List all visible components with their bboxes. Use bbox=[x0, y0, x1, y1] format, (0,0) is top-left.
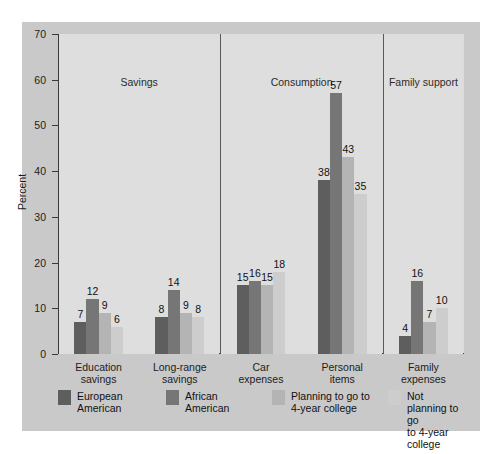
y-axis-label: Percent bbox=[16, 162, 28, 222]
figure-panel: 010203040506070 Percent SavingsConsumpti… bbox=[22, 22, 480, 431]
bar bbox=[74, 322, 86, 354]
bar-value-label: 12 bbox=[80, 285, 104, 297]
bar-value-label: 9 bbox=[93, 299, 117, 311]
panel-title: Consumption bbox=[220, 76, 382, 88]
bar bbox=[330, 93, 342, 354]
bar bbox=[399, 336, 411, 354]
legend-swatch bbox=[272, 390, 285, 405]
panel-title: Family support bbox=[383, 76, 464, 88]
legend-item[interactable]: Not planning to go to 4-year college bbox=[388, 390, 464, 450]
y-axis-tick bbox=[52, 171, 58, 172]
panel-title: Savings bbox=[58, 76, 220, 88]
legend-label: African American bbox=[185, 390, 229, 414]
y-axis-tick-label: 0 bbox=[24, 348, 46, 360]
y-axis-tick bbox=[52, 263, 58, 264]
y-axis-tick-label: 20 bbox=[24, 257, 46, 269]
legend-item[interactable]: African American bbox=[166, 390, 229, 414]
bar bbox=[192, 317, 204, 354]
bar bbox=[436, 308, 448, 354]
legend-label: Not planning to go to 4-year college bbox=[407, 390, 464, 450]
y-axis-tick-label: 10 bbox=[24, 302, 46, 314]
legend-swatch bbox=[166, 390, 179, 405]
bar-value-label: 14 bbox=[162, 276, 186, 288]
bar bbox=[249, 281, 261, 354]
bar-value-label: 35 bbox=[348, 180, 372, 192]
bar bbox=[273, 272, 285, 354]
bar bbox=[155, 317, 167, 354]
bar bbox=[423, 322, 435, 354]
y-axis-tick bbox=[52, 125, 58, 126]
bar bbox=[237, 285, 249, 354]
legend-item[interactable]: Planning to go to 4-year college bbox=[272, 390, 370, 414]
bar bbox=[354, 194, 366, 354]
legend-swatch bbox=[388, 390, 401, 405]
bar-value-label: 16 bbox=[405, 267, 429, 279]
chart-legend: European AmericanAfrican AmericanPlannin… bbox=[58, 390, 464, 422]
y-axis-tick bbox=[52, 308, 58, 309]
bar bbox=[318, 180, 330, 354]
y-axis-tick-label: 70 bbox=[24, 28, 46, 40]
legend-label: European American bbox=[77, 390, 123, 414]
bar bbox=[180, 313, 192, 354]
bar-value-label: 18 bbox=[267, 258, 291, 270]
bar-value-label: 8 bbox=[186, 303, 210, 315]
bar-value-label: 6 bbox=[105, 313, 129, 325]
bar-value-label: 57 bbox=[324, 79, 348, 91]
y-axis-tick bbox=[52, 217, 58, 218]
bar-value-label: 10 bbox=[430, 294, 454, 306]
y-axis-tick-label: 60 bbox=[24, 74, 46, 86]
legend-item[interactable]: European American bbox=[58, 390, 123, 414]
y-axis-tick bbox=[52, 34, 58, 35]
bar bbox=[111, 327, 123, 354]
bar bbox=[261, 285, 273, 354]
legend-label: Planning to go to 4-year college bbox=[291, 390, 370, 414]
legend-swatch bbox=[58, 390, 71, 405]
bar-value-label: 43 bbox=[336, 143, 360, 155]
x-axis-category-label: Family expenses bbox=[373, 361, 474, 385]
y-axis-tick-label: 50 bbox=[24, 119, 46, 131]
chart-page: 010203040506070 Percent SavingsConsumpti… bbox=[0, 0, 496, 454]
y-axis-tick bbox=[52, 354, 58, 355]
